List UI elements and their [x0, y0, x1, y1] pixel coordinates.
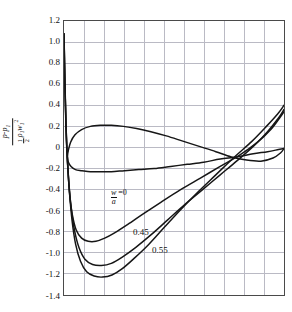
y-tick-label: 0.4	[32, 100, 60, 109]
y-tick-label: 1.0	[32, 37, 60, 46]
y-title-half-den: 2	[23, 139, 30, 144]
y-tick-label: -1.0	[32, 249, 60, 258]
y-tick-label: -0.2	[32, 164, 60, 173]
anno-ratio-den: a	[111, 197, 117, 206]
y-title-rho: ρ	[15, 134, 24, 138]
y-tick-label: -0.4	[32, 185, 60, 194]
data-curve	[68, 125, 284, 161]
y-tick-label: 0	[32, 143, 60, 152]
y-title-w-sub: 1	[20, 123, 26, 126]
y-title-p: p	[0, 135, 9, 139]
y-tick-label: -1.2	[32, 270, 60, 279]
annotation-ratio-w1-a1: w a =0	[110, 189, 127, 206]
annotation-curve-045: 0.45	[133, 228, 149, 237]
y-tick-label: -0.8	[32, 228, 60, 237]
y-tick-label: 0.8	[32, 58, 60, 67]
y-tick-label-group: 1.21.00.80.60.40.20-0.2-0.4-0.6-0.8-1.0-…	[32, 0, 60, 312]
y-title-w: w	[15, 126, 24, 131]
anno-ratio-eq: =0	[118, 188, 127, 197]
figure-root: p-p1 1 2 ρ1w12 1.21.00.80.60.40.20-0.2-0…	[0, 0, 292, 312]
data-curve	[64, 34, 284, 266]
anno-ratio-num: w	[110, 189, 117, 197]
y-title-minus: -	[0, 132, 9, 135]
y-title-p1: p	[0, 128, 9, 132]
y-tick-label: -0.6	[32, 207, 60, 216]
y-tick-label: -1.4	[32, 292, 60, 301]
data-layer	[64, 21, 284, 295]
plot-area	[63, 20, 285, 296]
annotation-curve-055: 0.55	[152, 246, 168, 255]
y-tick-label: 0.2	[32, 122, 60, 131]
y-tick-label: 1.2	[32, 16, 60, 25]
y-tick-label: 0.6	[32, 79, 60, 88]
